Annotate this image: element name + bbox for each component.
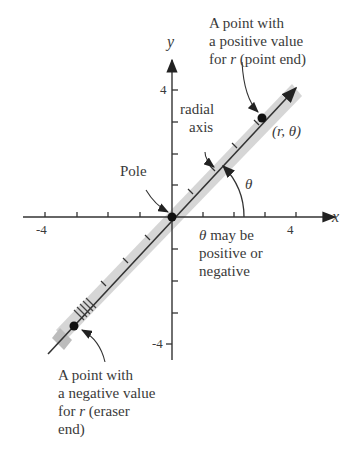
point-coords-label: (r, θ) xyxy=(272,122,301,140)
pole-pointer-arrow xyxy=(146,190,168,212)
radial-pointer-arrow xyxy=(205,152,214,167)
x-axis-label: x xyxy=(332,208,339,226)
y-tick-4: 4 xyxy=(160,82,167,98)
pole-point xyxy=(168,213,177,222)
theta-note: θ may be positive or negative xyxy=(199,226,263,280)
positive-pointer-arrow xyxy=(242,62,258,112)
theta-label: θ xyxy=(245,175,252,193)
polar-diagram xyxy=(0,0,351,470)
negative-r-point xyxy=(70,322,79,331)
x-tick-4: 4 xyxy=(287,222,294,238)
negative-point-label: A point with a negative value for r (era… xyxy=(58,366,155,438)
positive-point-label: A point with a positive value for r (poi… xyxy=(209,14,306,68)
x-tick-neg4: -4 xyxy=(36,222,47,238)
y-tick-neg4: -4 xyxy=(152,336,163,352)
pole-label: Pole xyxy=(120,162,147,180)
y-axis-label: y xyxy=(167,33,174,51)
positive-r-point xyxy=(258,114,267,123)
negative-pointer-arrow xyxy=(82,330,105,362)
radial-axis-label: radial axis xyxy=(180,100,214,136)
